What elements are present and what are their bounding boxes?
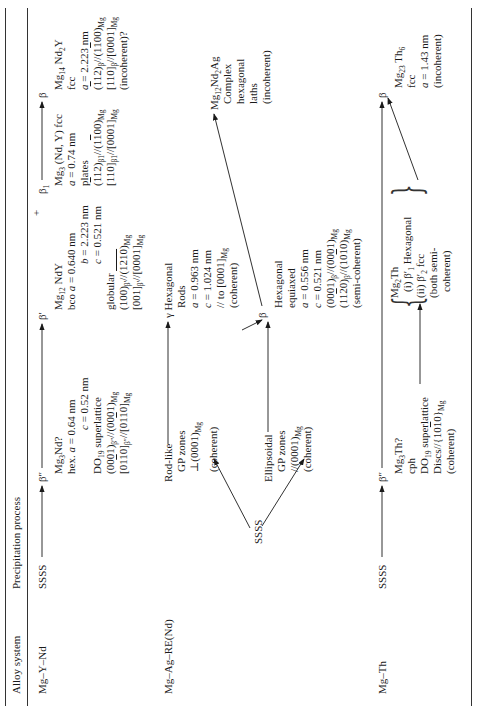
arrow-ssss-to-ellipsoidal — [262, 459, 304, 526]
arrow-mg2th-to-b — [388, 98, 418, 180]
arrow-gamma-to-beta — [242, 320, 262, 330]
rotated-table-page: Alloy system Precipitation process Mg–Y–… — [0, 0, 477, 714]
arrow-beta-to-final — [214, 114, 262, 306]
arrows-layer — [0, 0, 477, 714]
arrow-ssss-to-rod — [214, 459, 250, 528]
